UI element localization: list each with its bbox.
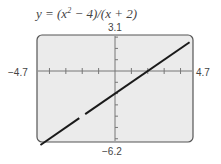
plot-area: [0, 0, 221, 164]
